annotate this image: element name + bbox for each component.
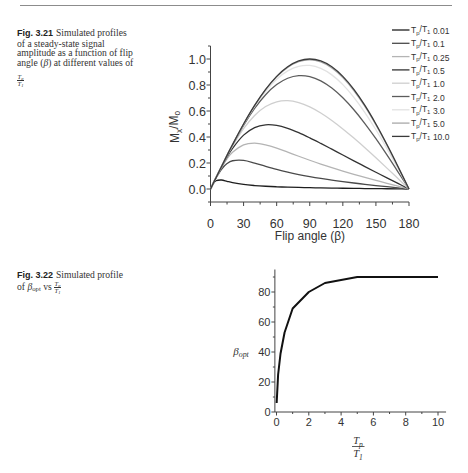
x-tick-label: 2 — [306, 416, 312, 428]
y-tick-label: 80 — [258, 286, 270, 298]
y-axis-label: βopt — [232, 345, 249, 359]
y-tick-label: 0 — [264, 406, 270, 418]
x-tick-label: 8 — [403, 416, 409, 428]
y-tick-label: 20 — [258, 376, 270, 388]
x-tick-label: 10 — [432, 416, 444, 428]
denominator-subscript: 1 — [359, 453, 363, 462]
x-tick-label: 6 — [370, 416, 376, 428]
y-tick-label: 40 — [258, 346, 270, 358]
subscript-part: opt — [239, 350, 250, 359]
y-tick-label: 60 — [258, 316, 270, 328]
x-tick-label: 4 — [338, 416, 344, 428]
book-page: Fig. 3.21Simulated profiles of a steady-… — [0, 0, 468, 473]
figure-3-22-chart: 0204060800246810βoptTpT1 — [0, 0, 468, 473]
x-axis-label-fraction: TpT1 — [352, 435, 365, 462]
fraction-denominator: T1 — [353, 448, 363, 462]
beta-opt-line — [277, 277, 438, 403]
x-tick-label: 0 — [273, 416, 279, 428]
